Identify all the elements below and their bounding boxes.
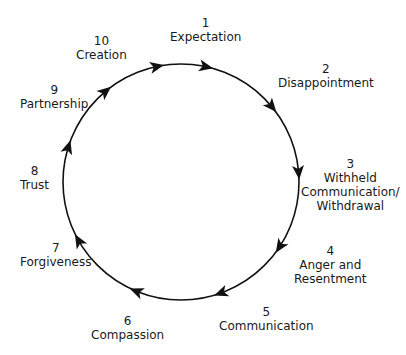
stage-1-label: 1 Expectation bbox=[170, 16, 241, 44]
stage-8-label: 8 Trust bbox=[20, 164, 49, 192]
stage-10-label: 10 Creation bbox=[76, 34, 127, 62]
stage-4-label: 4 Anger and Resentment bbox=[294, 244, 367, 286]
stage-3-label: 3 Withheld Communication/ Withdrawal bbox=[301, 157, 400, 213]
stage-9-label: 9 Partnership bbox=[20, 83, 88, 111]
stage-2-label: 2 Disappointment bbox=[278, 62, 374, 90]
cycle-diagram: 1 Expectation 2 Disappointment 3 Withhel… bbox=[0, 0, 406, 355]
arrowhead-icon bbox=[276, 238, 289, 253]
stage-5-label: 5 Communication bbox=[219, 305, 314, 333]
stage-6-label: 6 Compassion bbox=[91, 314, 164, 342]
stage-7-label: 7 Forgiveness bbox=[20, 241, 91, 269]
